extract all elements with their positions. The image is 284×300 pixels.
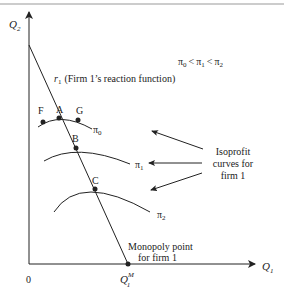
profit-inequality: π0<π1<π2 bbox=[178, 56, 223, 69]
monopoly-label-line1: Monopoly point bbox=[128, 241, 193, 252]
point-label-f: F bbox=[38, 105, 44, 116]
isoprofit-curve-pi2 bbox=[54, 192, 150, 212]
annotation-line2: curves for bbox=[213, 158, 254, 169]
point-label-c: C bbox=[92, 175, 99, 186]
x-axis-label: Q1 bbox=[262, 260, 273, 275]
reaction-function-label: r1(Firm 1’s reaction function) bbox=[54, 73, 175, 86]
annotation-line3: firm 1 bbox=[221, 170, 246, 181]
point-monopoly bbox=[126, 262, 131, 267]
point-label-a: A bbox=[56, 104, 64, 115]
diagram: Q2 Q1 0 r1(Firm 1’s reaction function) π… bbox=[0, 0, 284, 300]
curve-label-pi1: π1 bbox=[135, 159, 144, 172]
point-g bbox=[76, 118, 81, 123]
point-label-g: G bbox=[76, 105, 83, 116]
point-a bbox=[57, 116, 62, 121]
monopoly-label-line2: for firm 1 bbox=[138, 252, 177, 263]
curve-label-pi2: π2 bbox=[157, 209, 166, 222]
point-b bbox=[74, 146, 79, 151]
point-label-b: B bbox=[72, 133, 79, 144]
curve-label-pi0: π0 bbox=[93, 124, 102, 137]
y-axis-label: Q2 bbox=[9, 18, 21, 33]
point-f bbox=[41, 120, 46, 125]
point-c bbox=[93, 187, 98, 192]
origin-label: 0 bbox=[26, 274, 31, 285]
annotation-arrow-pi2 bbox=[151, 173, 202, 190]
annotation-arrow-pi0 bbox=[152, 131, 203, 149]
annotation-line1: Isoprofit bbox=[216, 146, 251, 157]
monopoly-quantity-label: QM1 bbox=[120, 271, 135, 289]
isoprofit-curve-pi1 bbox=[44, 152, 130, 164]
